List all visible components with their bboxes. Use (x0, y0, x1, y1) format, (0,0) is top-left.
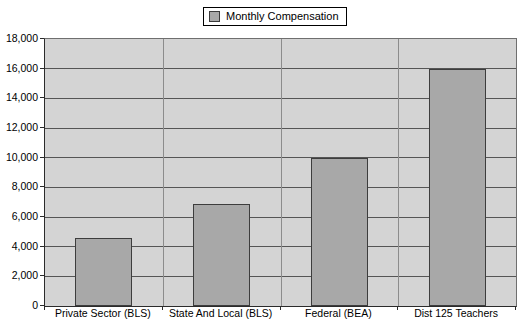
y-axis-tick-label: 18,000 (0, 33, 38, 44)
y-axis-tick-label: 10,000 (0, 152, 38, 163)
x-axis-tick-mark (280, 306, 281, 310)
bar (193, 204, 250, 306)
category-divider (398, 39, 399, 306)
category-divider (163, 39, 164, 306)
category-divider (281, 39, 282, 306)
y-axis-tick-label: 12,000 (0, 122, 38, 133)
plot-area (44, 38, 517, 307)
x-axis-tick-mark (515, 306, 516, 310)
bar (311, 158, 368, 306)
y-axis-tick-label: 2,000 (0, 270, 38, 281)
bar (429, 69, 486, 306)
x-axis-tick-label: Federal (BEA) (280, 308, 398, 319)
x-axis-tick-label: Private Sector (BLS) (44, 308, 162, 319)
y-axis-tick-label: 4,000 (0, 241, 38, 252)
x-axis-tick-mark (162, 306, 163, 310)
y-axis-tick-label: 14,000 (0, 92, 38, 103)
x-axis-tick-label: State And Local (BLS) (162, 308, 280, 319)
y-axis-tick-label: 8,000 (0, 181, 38, 192)
y-axis-tick-label: 16,000 (0, 63, 38, 74)
y-axis-tick-label: 6,000 (0, 211, 38, 222)
y-axis-tick-label: 0 (0, 300, 38, 311)
bar (75, 238, 132, 306)
x-axis-tick-mark (44, 306, 45, 310)
x-axis-tick-label: Dist 125 Teachers (397, 308, 515, 319)
bar-chart: Monthly Compensation 02,0004,0006,0008,0… (0, 0, 528, 323)
x-axis-tick-mark (397, 306, 398, 310)
